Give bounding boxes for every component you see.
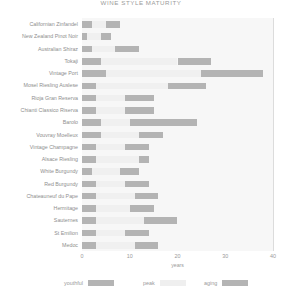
x-axis-tick-10: 10 bbox=[127, 253, 133, 259]
y-axis-label: Australian Shiraz bbox=[0, 46, 78, 52]
bar-segment-peak bbox=[96, 107, 125, 114]
legend-item-aging[interactable]: aging bbox=[204, 278, 248, 288]
bar-segment-youthful bbox=[82, 119, 101, 126]
bar-segment-aging bbox=[178, 58, 211, 65]
bar-segment-aging bbox=[125, 107, 154, 114]
bar-segment-aging bbox=[201, 70, 263, 77]
bar-row bbox=[82, 43, 273, 55]
y-axis-label: Vintage Port bbox=[0, 70, 78, 76]
bar-segment-aging bbox=[168, 83, 206, 90]
bar-segment-youthful bbox=[82, 21, 92, 28]
bar-segment-youthful bbox=[82, 242, 96, 249]
bar-segment-peak bbox=[96, 217, 144, 224]
bar-row bbox=[82, 214, 273, 226]
y-axis-label: Rioja Gran Reserva bbox=[0, 95, 78, 101]
bar-segment-aging bbox=[135, 193, 159, 200]
bar-segment-youthful bbox=[82, 193, 96, 200]
bar-segment-peak bbox=[92, 46, 116, 53]
y-axis-label: St Emilion bbox=[0, 230, 78, 236]
bar-segment-youthful bbox=[82, 230, 96, 237]
bar-segment-peak bbox=[92, 168, 121, 175]
bar-row bbox=[82, 177, 273, 189]
bar-segment-peak bbox=[96, 205, 129, 212]
bar-segment-peak bbox=[101, 58, 177, 65]
bar-segment-peak bbox=[96, 83, 168, 90]
bar-segment-youthful bbox=[82, 46, 92, 53]
bar-segment-peak bbox=[96, 193, 134, 200]
chart-title: WINE STYLE MATURITY bbox=[0, 0, 282, 6]
plot-area bbox=[82, 18, 273, 251]
legend-label: peak bbox=[143, 280, 155, 286]
bar-segment-youthful bbox=[82, 95, 96, 102]
bar-row bbox=[82, 104, 273, 116]
y-axis-label: Vintage Champagne bbox=[0, 144, 78, 150]
y-axis-label: Chateauneuf du Pape bbox=[0, 193, 78, 199]
x-axis-tick-40: 40 bbox=[270, 253, 276, 259]
bar-row bbox=[82, 141, 273, 153]
bar-segment-youthful bbox=[82, 132, 101, 139]
bar-row bbox=[82, 67, 273, 79]
bar-segment-aging bbox=[125, 95, 154, 102]
bar-row bbox=[82, 128, 273, 140]
bar-segment-aging bbox=[125, 144, 149, 151]
bar-row bbox=[82, 202, 273, 214]
bar-segment-peak bbox=[92, 21, 106, 28]
bar-segment-youthful bbox=[82, 144, 96, 151]
bar-segment-aging bbox=[139, 132, 163, 139]
bar-segment-peak bbox=[96, 242, 134, 249]
bar-segment-youthful bbox=[82, 156, 96, 163]
bar-segment-aging bbox=[144, 217, 177, 224]
bar-segment-youthful bbox=[82, 181, 96, 188]
bar-segment-peak bbox=[96, 156, 139, 163]
y-axis-label: Mosel Riesling Auslese bbox=[0, 82, 78, 88]
x-axis-tick-0: 0 bbox=[81, 253, 84, 259]
legend-label: aging bbox=[204, 280, 217, 286]
bar-segment-aging bbox=[115, 46, 139, 53]
bar-row bbox=[82, 116, 273, 128]
chart-legend: youthfulpeakaging bbox=[0, 278, 282, 290]
y-axis-label: Medoc bbox=[0, 242, 78, 248]
bar-segment-peak bbox=[96, 144, 125, 151]
bar-segment-aging bbox=[106, 21, 120, 28]
bar-row bbox=[82, 30, 273, 42]
y-axis-labels: Californian ZinfandelNew Zealand Pinot N… bbox=[0, 18, 78, 251]
gridline-40 bbox=[273, 18, 274, 251]
y-axis-label: Sauternes bbox=[0, 217, 78, 223]
bar-segment-aging bbox=[139, 156, 149, 163]
y-axis-label: Barolo bbox=[0, 119, 78, 125]
y-axis-label: Vouvray Moelleux bbox=[0, 132, 78, 138]
bar-segment-aging bbox=[125, 181, 149, 188]
y-axis-label: Chianti Classico Riserva bbox=[0, 107, 78, 113]
bar-row bbox=[82, 79, 273, 91]
bar-segment-youthful bbox=[82, 168, 92, 175]
bar-segment-aging bbox=[130, 119, 197, 126]
bar-segment-peak bbox=[96, 181, 125, 188]
bar-segment-youthful bbox=[82, 217, 96, 224]
y-axis-label: New Zealand Pinot Noir bbox=[0, 33, 78, 39]
bar-row bbox=[82, 18, 273, 30]
bar-segment-peak bbox=[87, 33, 101, 40]
legend-item-peak[interactable]: peak bbox=[143, 278, 186, 288]
y-axis-label: Tokaji bbox=[0, 58, 78, 64]
bar-row bbox=[82, 153, 273, 165]
y-axis-label: Californian Zinfandel bbox=[0, 21, 78, 27]
bar-segment-aging bbox=[130, 205, 154, 212]
legend-swatch-aging bbox=[222, 280, 248, 287]
x-axis-tick-30: 30 bbox=[222, 253, 228, 259]
bar-row bbox=[82, 239, 273, 251]
legend-label: youthful bbox=[64, 280, 83, 286]
bar-row bbox=[82, 55, 273, 67]
bar-segment-aging bbox=[135, 242, 159, 249]
bar-segment-peak bbox=[101, 119, 130, 126]
y-axis-label: White Burgundy bbox=[0, 168, 78, 174]
bar-row bbox=[82, 165, 273, 177]
bar-segment-youthful bbox=[82, 107, 96, 114]
bar-segment-peak bbox=[96, 230, 125, 237]
bar-segment-aging bbox=[101, 33, 111, 40]
bar-segment-youthful bbox=[82, 58, 101, 65]
bar-segment-peak bbox=[101, 132, 139, 139]
bar-row bbox=[82, 226, 273, 238]
bar-segment-aging bbox=[120, 168, 139, 175]
bar-segment-youthful bbox=[82, 70, 106, 77]
legend-item-youthful[interactable]: youthful bbox=[64, 278, 114, 288]
